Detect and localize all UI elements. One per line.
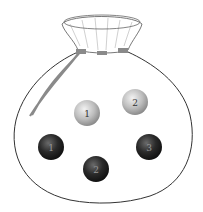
ball-label: 3 — [146, 143, 152, 153]
ball-label: 1 — [84, 109, 90, 119]
drawstring-knot-right — [118, 48, 128, 53]
bag-diagram: 1 2 1 2 3 — [0, 0, 203, 212]
ball-dark-1: 1 — [38, 134, 64, 160]
ball-dark-2: 2 — [83, 156, 109, 182]
ball-label: 2 — [132, 98, 138, 108]
ball-label: 1 — [48, 143, 54, 153]
ball-dark-3: 3 — [136, 134, 162, 160]
bag-neck — [62, 17, 142, 54]
ball-label: 2 — [93, 165, 99, 175]
ball-light-1: 1 — [74, 100, 100, 126]
drawstring-knot-center — [97, 51, 107, 55]
drawstring-knot-left — [76, 49, 86, 54]
bag-body — [14, 52, 192, 203]
ball-light-2: 2 — [122, 89, 148, 115]
